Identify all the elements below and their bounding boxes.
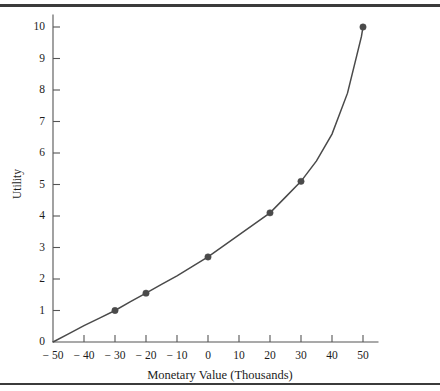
- chart-axes: [53, 14, 379, 342]
- chart-data-points: [112, 24, 366, 314]
- y-tick-label: 10: [11, 21, 45, 33]
- y-tick-label: 9: [11, 53, 45, 65]
- y-tick-label: 1: [11, 305, 45, 317]
- y-tick-label: 7: [11, 116, 45, 128]
- y-tick-label: 8: [11, 84, 45, 96]
- chart-plot-area: [0, 0, 440, 391]
- y-tick-label: 2: [11, 273, 45, 285]
- utility-function-figure: 012345678910 − 50− 40− 30− 20− 100102030…: [0, 0, 440, 391]
- y-axis-title: Utility: [11, 154, 23, 214]
- x-tick-label: 50: [343, 350, 383, 362]
- x-axis-title: Monetary Value (Thousands): [0, 368, 440, 383]
- utility-curve: [53, 27, 363, 342]
- chart-tick-marks: [53, 27, 363, 342]
- y-tick-label: 0: [11, 336, 45, 348]
- y-tick-label: 3: [11, 242, 45, 254]
